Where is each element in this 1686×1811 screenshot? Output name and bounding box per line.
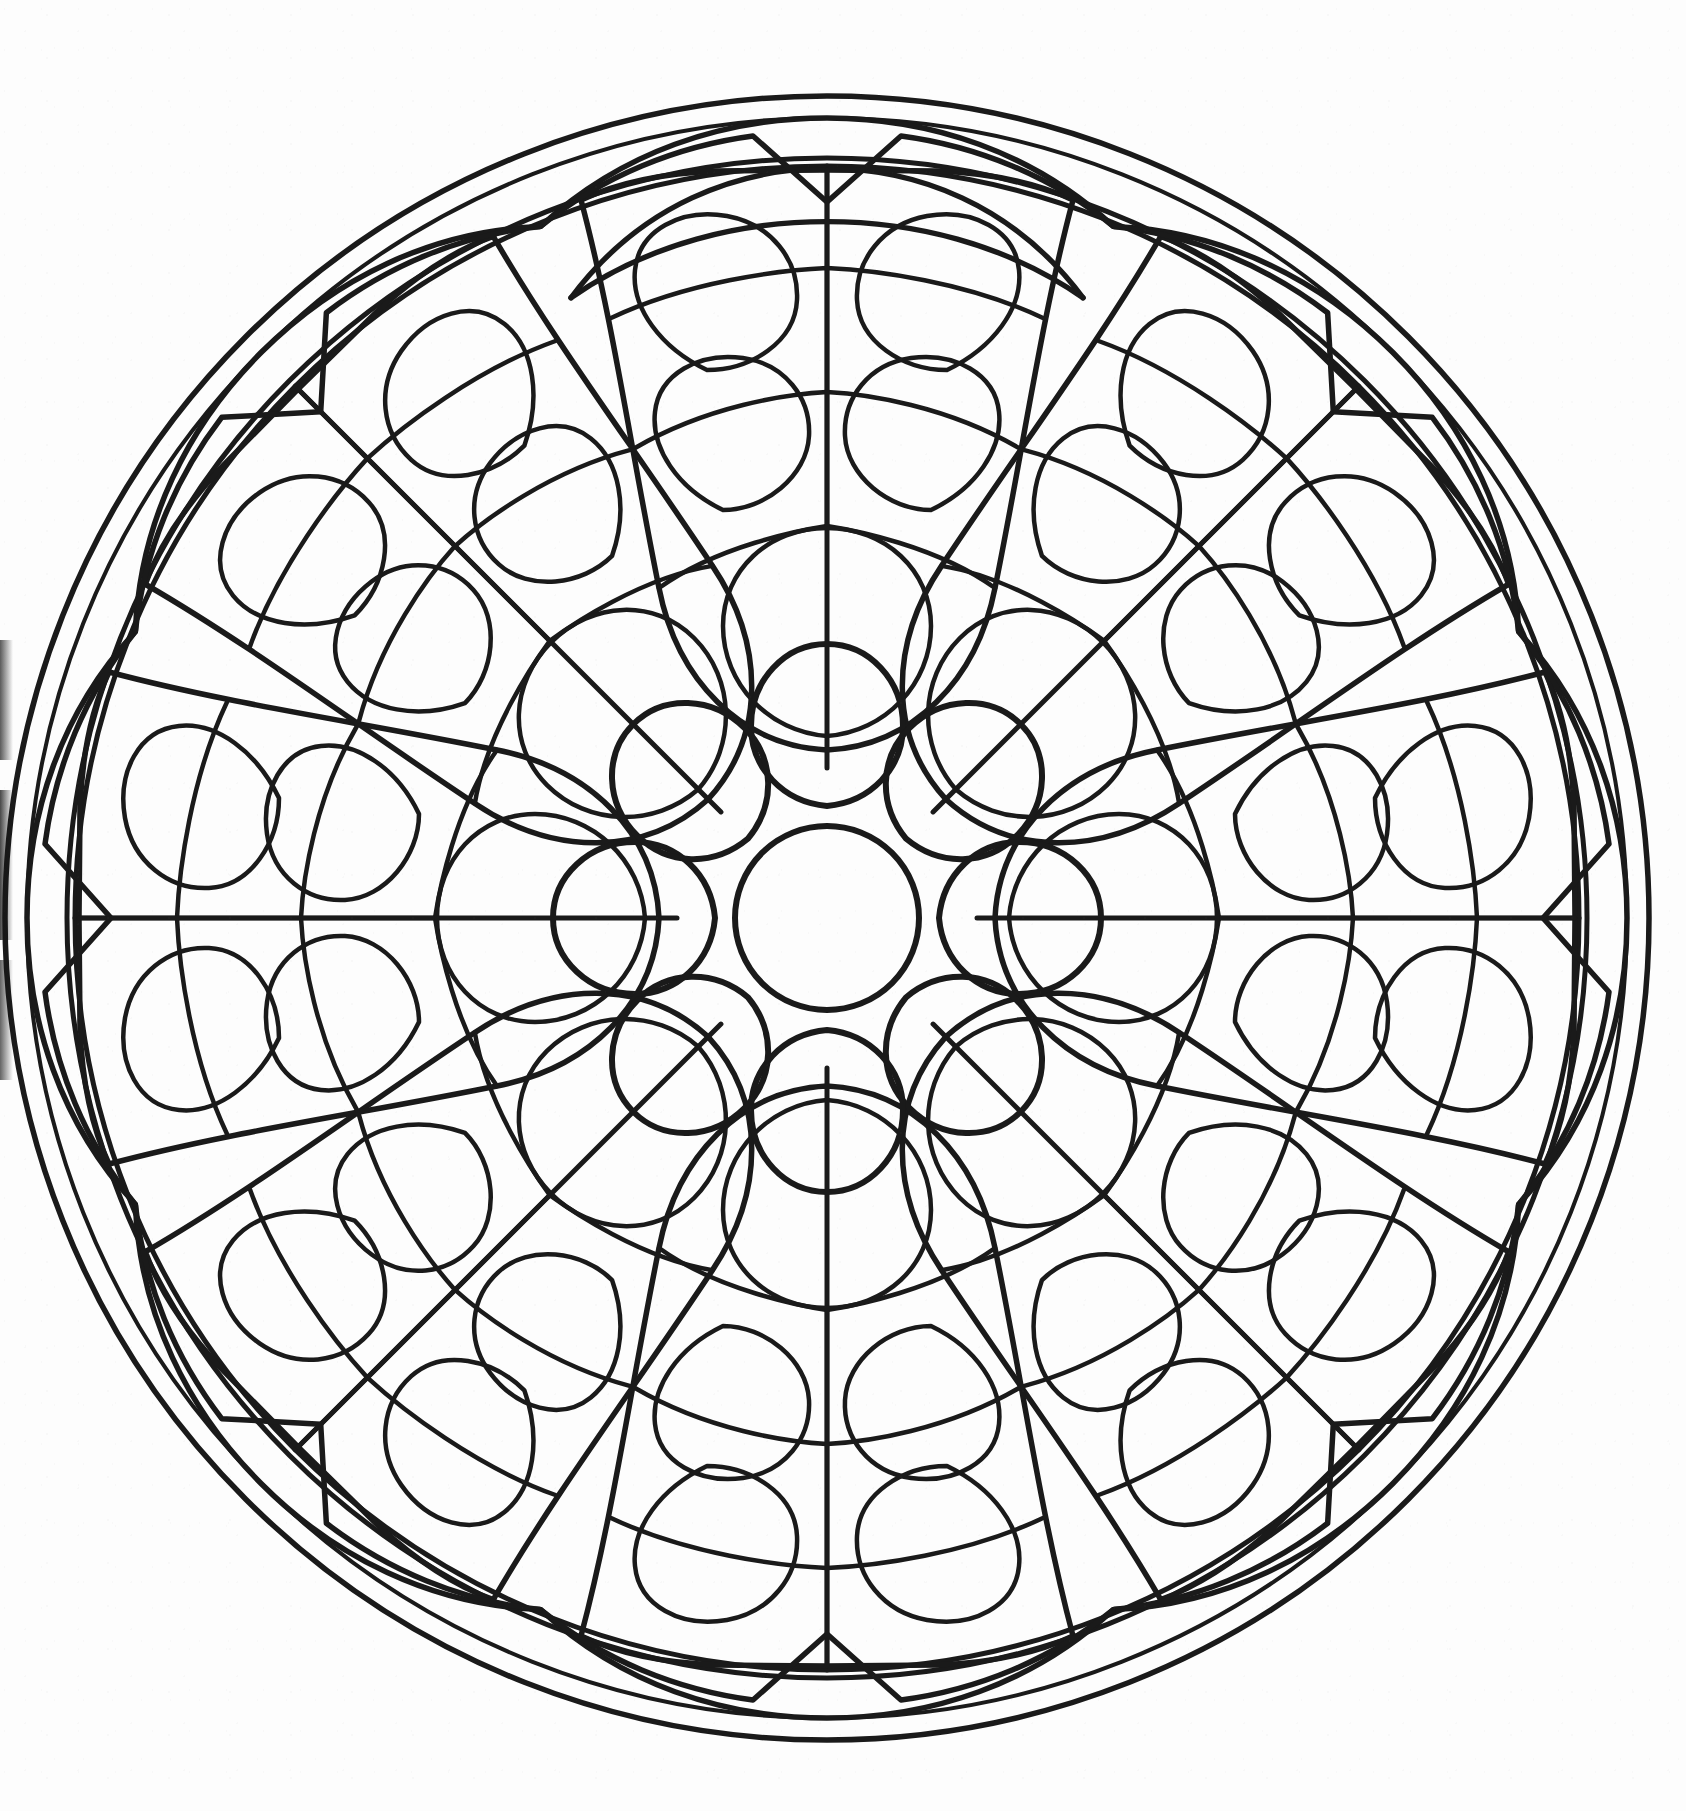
petal-wedge [124, 215, 882, 973]
hub-circle [735, 826, 919, 1010]
ink-layer [5, 96, 1649, 1740]
petal-wedge [124, 863, 882, 1621]
coloring-page [0, 0, 1686, 1811]
petal-wedge [772, 215, 1530, 973]
petal-wedges [79, 170, 1575, 1666]
rose-window-artwork [0, 0, 1686, 1811]
petal-wedge [772, 863, 1530, 1621]
